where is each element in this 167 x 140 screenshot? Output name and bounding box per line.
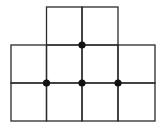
dot-marker: [43, 79, 50, 86]
grid-cell: [11, 83, 47, 121]
dot-marker: [78, 79, 85, 86]
grid-cell: [118, 83, 155, 121]
grid-cell: [82, 7, 118, 45]
grid-cells: [11, 7, 155, 121]
dot-marker: [78, 41, 85, 48]
grid-cell: [47, 83, 83, 121]
grid-diagram: [0, 0, 167, 140]
grid-cell: [118, 45, 155, 83]
grid-cell: [47, 7, 83, 45]
grid-cell: [82, 45, 118, 83]
grid-cell: [82, 83, 118, 121]
grid-cell: [11, 45, 47, 83]
dot-marker: [114, 79, 121, 86]
grid-cell: [47, 45, 83, 83]
